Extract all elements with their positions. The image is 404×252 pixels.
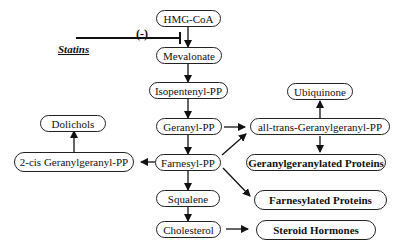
node-dolichols: Dolichols bbox=[40, 115, 106, 132]
node-farnesylated-proteins: Farnesylated Proteins bbox=[254, 190, 387, 210]
node-mevalonate: Mevalonate bbox=[156, 47, 222, 64]
node-hmg-coa: HMG-CoA bbox=[156, 10, 221, 27]
node-ubiquinone: Ubiquinone bbox=[287, 83, 353, 100]
node-isopentenyl-pp: Isopentenyl-PP bbox=[149, 82, 228, 99]
inhibition-sign: (-) bbox=[136, 27, 148, 42]
node-all-trans-geranylgeranyl-pp: all-trans-Geranylgeranyl-PP bbox=[250, 118, 390, 135]
node-geranylgeranylated-proteins: Geranylgeranylated Proteins bbox=[246, 154, 386, 171]
node-farnesyl-pp: Farnesyl-PP bbox=[155, 154, 221, 171]
node-cholesterol: Cholesterol bbox=[156, 221, 221, 238]
node-geranyl-pp: Geranyl-PP bbox=[156, 118, 222, 135]
node-2-cis-geranylgeranyl-pp: 2-cis Geranylgeranyl-PP bbox=[14, 152, 134, 172]
node-steroid-hormones: Steroid Hormones bbox=[256, 220, 376, 240]
node-squalene: Squalene bbox=[156, 190, 220, 207]
statins-label: Statins bbox=[58, 43, 89, 55]
